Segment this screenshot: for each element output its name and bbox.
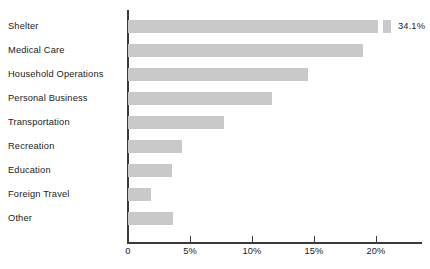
category-label-household-operations: Household Operations bbox=[8, 69, 113, 80]
x-tick-mark-20 bbox=[376, 236, 377, 243]
bar-education bbox=[128, 164, 172, 177]
bar-foreign-travel bbox=[128, 188, 151, 201]
category-label-shelter: Shelter bbox=[8, 21, 113, 32]
x-axis-ticks: 0 5% 10% 15% 20% bbox=[128, 236, 428, 266]
bar-transportation bbox=[128, 116, 224, 129]
x-tick-mark-10 bbox=[252, 236, 253, 243]
bar-value-shelter: 34.1% bbox=[398, 21, 425, 31]
x-tick-label-0: 0 bbox=[125, 246, 130, 256]
bar-other bbox=[128, 212, 173, 225]
category-label-other: Other bbox=[8, 213, 113, 224]
category-label-transportation: Transportation bbox=[8, 117, 113, 128]
x-tick-mark-5 bbox=[190, 236, 191, 243]
x-tick-label-5: 5% bbox=[183, 246, 197, 256]
category-axis-labels: Shelter Medical Care Household Operation… bbox=[0, 10, 121, 243]
category-label-recreation: Recreation bbox=[8, 141, 113, 152]
x-tick-mark-15 bbox=[314, 236, 315, 243]
bar-household-operations bbox=[128, 68, 308, 81]
bar-recreation bbox=[128, 140, 182, 153]
bar-series: 34.1% bbox=[128, 10, 428, 243]
bar-medical-care bbox=[128, 44, 363, 57]
category-label-personal-business: Personal Business bbox=[8, 93, 113, 104]
bar-shelter-capped bbox=[383, 20, 391, 33]
bar-shelter-main bbox=[128, 20, 378, 33]
category-label-medical-care: Medical Care bbox=[8, 45, 113, 56]
x-tick-label-15: 15% bbox=[304, 246, 323, 256]
category-label-foreign-travel: Foreign Travel bbox=[8, 189, 113, 200]
bar-personal-business bbox=[128, 92, 272, 105]
x-tick-label-20: 20% bbox=[366, 246, 385, 256]
category-label-education: Education bbox=[8, 165, 113, 176]
plot-area: Shelter Medical Care Household Operation… bbox=[0, 0, 430, 269]
x-tick-mark-0 bbox=[128, 236, 129, 243]
bar-chart: Shelter Medical Care Household Operation… bbox=[0, 0, 430, 269]
x-tick-label-10: 10% bbox=[242, 246, 261, 256]
